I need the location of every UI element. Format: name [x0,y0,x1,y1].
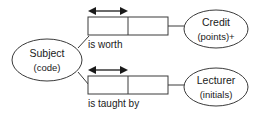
entity-shape-subject[interactable] [12,39,82,81]
uniqueness-constraint-is-taught-by [88,66,128,74]
entity-name-lecturer: Lecturer [197,74,236,86]
uniqueness-arrowhead-left-is-taught-by [88,66,96,74]
fact-type-is-worth[interactable]: is worth [88,7,168,50]
fact-type-is-taught-by[interactable]: is taught by [88,66,168,109]
entity-lecturer[interactable]: Lecturer (initials) [184,68,248,106]
entity-refmode-subject: (code) [34,62,61,73]
predicate-label-is-worth: is worth [88,39,122,50]
entity-name-subject: Subject [29,47,64,59]
predicate-label-is-taught-by: is taught by [88,98,139,109]
entity-name-credit: Credit [202,16,230,28]
entity-refmode-lecturer: (initials) [200,89,233,100]
connector-subject-is-taught-by [78,72,89,85]
entity-credit[interactable]: Credit (points)+ [184,10,248,48]
uniqueness-constraint-is-worth [88,7,128,15]
uniqueness-arrowhead-left-is-worth [88,7,96,15]
diagram-svg: is worth is taught by Subject (code) Cre… [0,0,255,121]
uniqueness-arrowhead-right-is-worth [120,7,128,15]
entity-subject[interactable]: Subject (code) [12,39,82,81]
uniqueness-arrowhead-right-is-taught-by [120,66,128,74]
entity-refmode-credit: (points)+ [197,31,235,42]
orm-diagram-canvas: is worth is taught by Subject (code) Cre… [0,0,255,121]
